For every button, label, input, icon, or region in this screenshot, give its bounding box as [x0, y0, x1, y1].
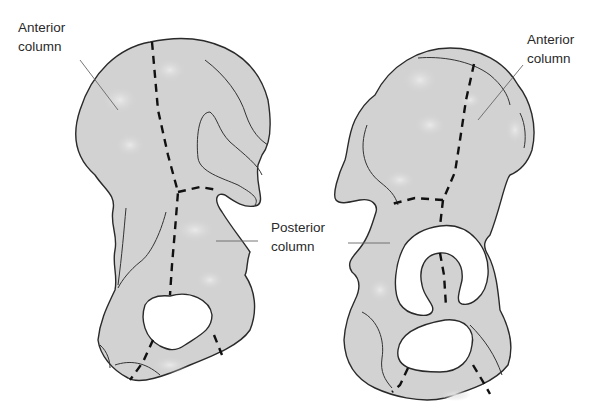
right-anterior-column-label: Anterior column [527, 30, 574, 68]
left-anterior-column-label: Anterior column [18, 18, 65, 56]
label-text: Anterior column [18, 20, 65, 54]
hip-bone-diagram [0, 0, 601, 408]
label-text: Posterior column [271, 220, 325, 254]
label-text: Anterior column [527, 32, 574, 66]
left-hip-bone [76, 39, 270, 381]
posterior-column-label: Posterior column [271, 218, 325, 256]
right-hip-bone [335, 48, 534, 401]
